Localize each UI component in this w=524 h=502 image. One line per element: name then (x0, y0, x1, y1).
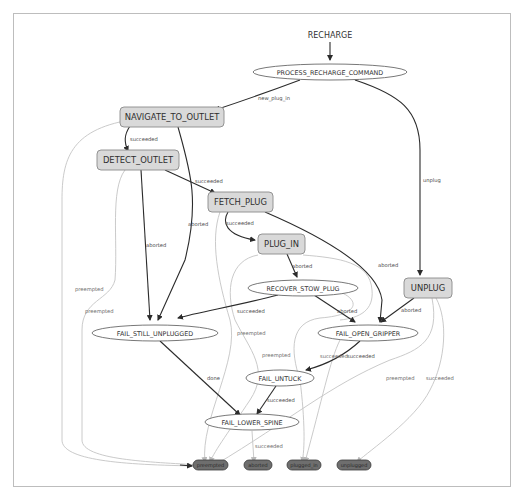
svg-text:FAIL_LOWER_SPINE: FAIL_LOWER_SPINE (221, 419, 282, 427)
state-recover-stow-plug[interactable]: RECOVER_STOW_PLUG (248, 280, 358, 296)
edge-label-detect-succeeded: succeeded (195, 178, 223, 184)
edge-label-gripper-succeeded-b: succeeded (347, 353, 375, 359)
edge-label-unplug: unplug (423, 177, 441, 184)
svg-text:UNPLUG: UNPLUG (411, 283, 445, 293)
svg-text:preempted: preempted (197, 462, 225, 469)
svg-text:FAIL_STILL_UNPLUGGED: FAIL_STILL_UNPLUGGED (117, 330, 193, 338)
svg-text:aborted: aborted (248, 462, 268, 468)
edge-label-nav-succeeded: succeeded (130, 136, 158, 142)
edge-label-nav-preempted: preempted (75, 286, 104, 293)
svg-text:PROCESS_RECHARGE_COMMAND: PROCESS_RECHARGE_COMMAND (277, 69, 384, 77)
state-fail-still-unplugged[interactable]: FAIL_STILL_UNPLUGGED (92, 325, 218, 341)
edge-label-recover-succeeded: succeeded (237, 308, 265, 314)
container-title: RECHARGE (308, 31, 353, 40)
outcome-plugged-in[interactable]: plugged_in (287, 460, 321, 470)
edge-labels: new_plug_in unplug succeeded aborted pre… (75, 95, 454, 449)
svg-text:unplugged: unplugged (341, 462, 368, 469)
svg-text:RECOVER_STOW_PLUG: RECOVER_STOW_PLUG (266, 285, 339, 293)
edge-label-done: done (207, 375, 220, 381)
edge-label-lower-spine-succeeded: succeeded (255, 443, 283, 449)
svg-text:NAVIGATE_TO_OUTLET: NAVIGATE_TO_OUTLET (125, 112, 221, 122)
edge-label-gripper-succeeded-a: succeeded (320, 353, 348, 359)
state-fail-open-gripper[interactable]: FAIL_OPEN_GRIPPER (318, 325, 418, 341)
state-machine-graph[interactable]: new_plug_in unplug succeeded aborted pre… (0, 0, 524, 502)
outcome-aborted[interactable]: aborted (244, 460, 272, 470)
edge-label-unplug-aborted: aborted (401, 307, 421, 313)
state-process-recharge-command[interactable]: PROCESS_RECHARGE_COMMAND (253, 64, 407, 80)
edge-label-fetch-aborted: aborted (378, 262, 398, 268)
state-detect-outlet[interactable]: DETECT_OUTLET (97, 150, 179, 170)
state-fail-lower-spine[interactable]: FAIL_LOWER_SPINE (205, 414, 299, 430)
state-plug-in[interactable]: PLUG_IN (258, 234, 305, 254)
edge-label-plugin-aborted: aborted (292, 263, 312, 269)
state-fetch-plug[interactable]: FETCH_PLUG (208, 192, 273, 212)
svg-text:DETECT_OUTLET: DETECT_OUTLET (103, 155, 174, 165)
state-fail-untuck[interactable]: FAIL_UNTUCK (246, 370, 314, 386)
svg-text:plugged_in: plugged_in (290, 462, 317, 469)
svg-text:FETCH_PLUG: FETCH_PLUG (214, 197, 267, 207)
edge-label-nav-aborted: aborted (188, 221, 208, 227)
svg-text:FAIL_UNTUCK: FAIL_UNTUCK (259, 375, 303, 383)
edge-label-unplug-preempted: preempted (386, 375, 415, 382)
edge-label-fetch-succeeded: succeeded (226, 220, 254, 226)
edge-label-plugin-preempted: preempted (262, 352, 291, 359)
outcome-unplugged[interactable]: unplugged (337, 460, 371, 470)
edge-label-new-plug-in: new_plug_in (258, 95, 290, 102)
edge-label-recover-aborted: aborted (337, 308, 357, 314)
edge-label-unplug-succeeded: succeeded (426, 375, 454, 381)
state-unplug[interactable]: UNPLUG (404, 278, 452, 298)
edge-label-detect-preempted: preempted (85, 308, 114, 315)
status-bar (14, 491, 514, 501)
svg-text:PLUG_IN: PLUG_IN (264, 239, 299, 249)
edge-label-untuck-succeeded: succeeded (267, 397, 295, 403)
state-navigate-to-outlet[interactable]: NAVIGATE_TO_OUTLET (120, 107, 224, 127)
edge-label-detect-aborted: aborted (146, 242, 166, 248)
svg-text:FAIL_OPEN_GRIPPER: FAIL_OPEN_GRIPPER (336, 330, 401, 338)
edge-label-fetch-preempted: preempted (237, 330, 266, 337)
outcome-preempted[interactable]: preempted (193, 460, 228, 470)
